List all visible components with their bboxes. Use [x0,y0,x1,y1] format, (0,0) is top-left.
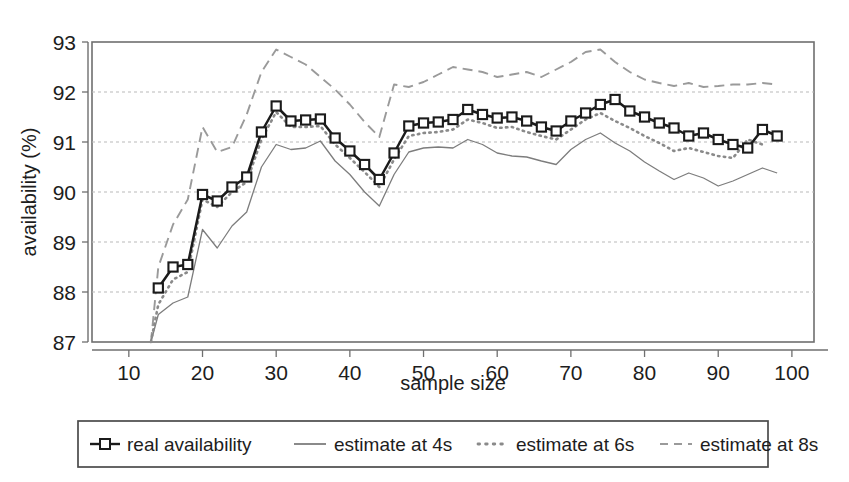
data-point-marker [684,131,693,140]
x-tick-label-40: 40 [338,361,361,384]
data-point-marker [758,125,767,134]
y-axis-title: availability (%) [18,128,40,257]
data-point-marker [242,172,251,181]
data-point-marker [213,196,222,205]
availability-vs-sample-size-chart: 87888990919293 102030405060708090100 sam… [0,0,849,482]
series-line-estimate-4s [151,133,777,342]
data-point-marker [773,131,782,140]
data-point-marker [154,283,163,292]
legend-label-estimate-4s: estimate at 4s [334,434,452,455]
data-point-marker [316,114,325,123]
data-point-marker [375,175,384,184]
x-tick-label-30: 30 [265,361,288,384]
legend-label-estimate-8s: estimate at 8s [700,434,818,455]
series-markers-real-availability [154,95,782,293]
y-tick-label-89: 89 [53,231,76,254]
x-axis-ticks [129,350,792,357]
x-tick-label-90: 90 [707,361,730,384]
data-point-marker [552,126,561,135]
data-point-marker [168,262,177,271]
data-point-marker [669,123,678,132]
x-tick-label-80: 80 [633,361,656,384]
data-point-marker [404,121,413,130]
y-tick-label-90: 90 [53,181,76,204]
data-point-marker [743,143,752,152]
data-point-marker [566,116,575,125]
data-point-marker [227,182,236,191]
data-point-marker [478,110,487,119]
data-point-marker [522,116,531,125]
y-tick-label-91: 91 [53,131,76,154]
data-point-marker [655,118,664,127]
data-point-marker [596,100,605,109]
data-point-marker [183,260,192,269]
series-line-estimate-8s [151,50,777,343]
chart-legend: real availability estimate at 4s estimat… [78,421,818,467]
data-point-marker [714,135,723,144]
y-tick-label-92: 92 [53,81,76,104]
y-tick-label-88: 88 [53,281,76,304]
data-point-marker [389,148,398,157]
data-point-marker [728,140,737,149]
data-point-marker [434,117,443,126]
data-point-marker [286,116,295,125]
y-axis-tick-labels: 87888990919293 [53,31,76,354]
x-axis [92,350,828,357]
data-point-marker [581,108,590,117]
y-axis [82,42,88,342]
data-point-marker [507,112,516,121]
data-point-marker [448,115,457,124]
data-point-marker [463,105,472,114]
legend-label-real-availability: real availability [127,434,252,455]
chart-figure: 87888990919293 102030405060708090100 sam… [0,0,849,482]
x-tick-label-70: 70 [559,361,582,384]
data-point-marker [198,190,207,199]
data-point-marker [625,106,634,115]
y-tick-label-87: 87 [53,331,76,354]
data-point-marker [640,112,649,121]
x-tick-label-20: 20 [191,361,214,384]
data-point-marker [419,118,428,127]
data-point-marker [493,113,502,122]
legend-square-marker-icon [100,439,110,449]
data-point-marker [301,115,310,124]
data-point-marker [610,95,619,104]
x-tick-label-10: 10 [117,361,140,384]
data-point-marker [345,146,354,155]
data-point-marker [331,133,340,142]
legend-label-estimate-6s: estimate at 6s [516,434,634,455]
data-point-marker [360,160,369,169]
y-axis-ticks [82,42,88,342]
data-point-marker [257,127,266,136]
x-axis-title: sample size [400,372,506,394]
series-line-real-availability [158,100,777,289]
data-point-marker [272,101,281,110]
x-tick-label-100: 100 [774,361,809,384]
data-series-layer [151,50,782,343]
y-tick-label-93: 93 [53,31,76,54]
data-point-marker [699,128,708,137]
data-point-marker [537,122,546,131]
